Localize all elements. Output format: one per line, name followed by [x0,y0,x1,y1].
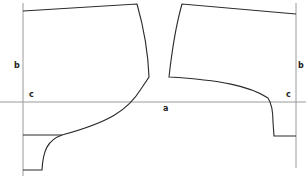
label-b-right: b [298,61,304,70]
front-pattern-piece [23,4,149,135]
label-c-right: c [286,90,291,99]
front-crotch-extension [23,135,62,170]
label-b-left: b [14,61,20,70]
pattern-diagram: b b c c a [0,0,306,176]
label-a-center: a [163,104,168,113]
label-c-left: c [29,90,34,99]
back-pattern-piece [169,4,296,136]
